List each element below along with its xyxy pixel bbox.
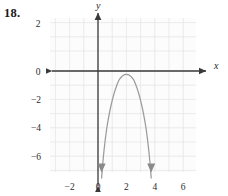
x-axis-label: x	[214, 60, 218, 71]
y-tick-label-0: 0	[36, 67, 41, 77]
plot-background	[50, 18, 196, 172]
x-tick-label-6: 6	[181, 182, 186, 192]
y-tick-label-2: 2	[36, 19, 41, 29]
x-tick-label-0: 0	[96, 182, 101, 192]
y-tick-label--6: −6	[31, 152, 41, 162]
y-axis-label: y	[96, 0, 100, 11]
y-tick-label--4: −4	[31, 123, 41, 133]
graph-figure: 2 0 −2 −4 −6 −2 0 2 4 6	[0, 0, 228, 196]
x-tick-label--2: −2	[65, 182, 75, 192]
x-tick-label-2: 2	[124, 182, 129, 192]
x-tick-label-4: 4	[152, 182, 157, 192]
y-tick-label--2: −2	[31, 95, 41, 105]
